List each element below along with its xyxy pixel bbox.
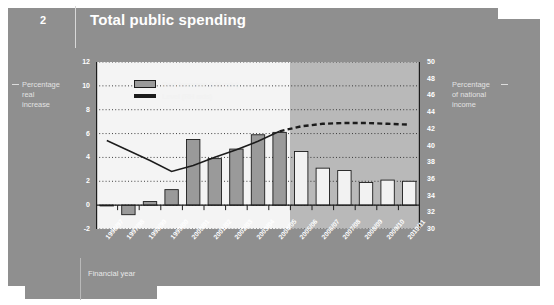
- card-background-footer: [25, 286, 157, 299]
- left-axis-caption: Percentage real increase: [22, 80, 60, 110]
- bar-2004-05: [273, 132, 286, 205]
- left-axis-tick-label: 4: [74, 153, 90, 160]
- bar-2001-02: [208, 159, 221, 206]
- right-axis-tick-label: 42: [427, 125, 443, 132]
- chart-legend: Real increase (LH axis) Level (RH axis): [134, 78, 264, 102]
- right-axis-tick-label: 40: [427, 142, 443, 149]
- left-axis-tick-label: 0: [74, 201, 90, 208]
- left-axis-caption-line-2: real: [22, 90, 60, 100]
- right-caption-dash: [501, 84, 508, 85]
- bar-2000-01: [187, 140, 200, 206]
- forecast-region-band: [290, 62, 420, 229]
- left-axis-caption-line-3: increase: [22, 100, 60, 110]
- footer-divider: [80, 258, 81, 300]
- right-axis-tick-label: 30: [427, 225, 443, 232]
- left-axis-tick-label: 10: [74, 82, 90, 89]
- bar-2002-03: [230, 149, 243, 205]
- screenshot-root: 2 Total public spending Percentage real …: [0, 0, 554, 305]
- right-axis-tick-label: 44: [427, 108, 443, 115]
- right-axis-caption-line-1: Percentage: [452, 80, 490, 90]
- left-caption-dash: [12, 84, 19, 85]
- right-axis-tick-label: 48: [427, 75, 443, 82]
- left-axis-tick-label: 6: [74, 130, 90, 137]
- header-divider: [75, 6, 76, 48]
- right-axis-tick-label: 36: [427, 175, 443, 182]
- bar-2003-04: [251, 135, 264, 205]
- chart-header: [8, 8, 540, 44]
- right-axis-tick-label: 38: [427, 158, 443, 165]
- right-axis-tick-label: 50: [427, 58, 443, 65]
- right-axis-caption: Percentage of national income: [452, 80, 490, 110]
- bar-2005-06: [295, 151, 308, 205]
- bar-1999-00: [165, 190, 178, 206]
- bar-2008-09: [359, 182, 372, 205]
- left-axis-caption-line-1: Percentage: [22, 80, 60, 90]
- right-axis-caption-line-3: income: [452, 100, 490, 110]
- left-axis-tick-label: 8: [74, 106, 90, 113]
- legend-bar-swatch-icon: [134, 80, 156, 88]
- left-axis-tick-label: 12: [74, 58, 90, 65]
- bar-2006-07: [316, 168, 329, 205]
- page-title: Total public spending: [90, 11, 246, 28]
- left-axis-tick-label: -2: [74, 225, 90, 232]
- x-axis-title: Financial year: [88, 269, 135, 278]
- legend-item-level: Level (RH axis): [134, 90, 264, 102]
- left-axis-tick-label: 2: [74, 177, 90, 184]
- legend-label-level: Level (RH axis): [162, 93, 212, 100]
- bar-1997-98: [122, 205, 135, 215]
- legend-label-real-increase: Real increase (LH axis): [162, 81, 239, 88]
- bar-2007-08: [338, 171, 351, 206]
- right-axis-tick-label: 32: [427, 208, 443, 215]
- legend-line-swatch-icon: [134, 94, 156, 98]
- bar-2009-10: [381, 180, 394, 205]
- right-axis-tick-label: 46: [427, 91, 443, 98]
- bar-2010-11: [403, 181, 416, 205]
- chart-number: 2: [40, 14, 47, 26]
- right-axis-tick-label: 34: [427, 192, 443, 199]
- legend-item-real-increase: Real increase (LH axis): [134, 78, 264, 90]
- right-axis-caption-line-2: of national: [452, 90, 490, 100]
